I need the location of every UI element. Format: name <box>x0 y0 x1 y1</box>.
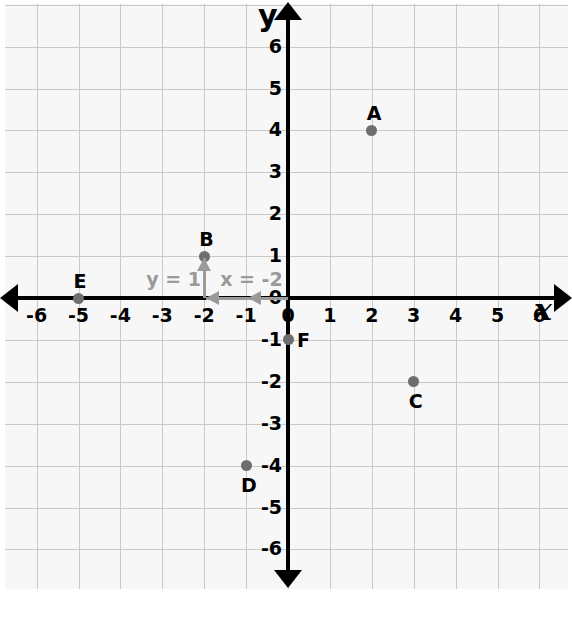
plotted-point-f <box>283 334 294 345</box>
x-tick-label-4: 4 <box>436 306 476 325</box>
x-tick-label-neg1: -1 <box>226 306 266 325</box>
point-label-e: E <box>74 272 87 291</box>
x-tick-label-neg6: -6 <box>17 306 57 325</box>
x-tick-label-3: 3 <box>394 306 434 325</box>
y-axis-line <box>286 14 290 576</box>
y-value-annotation-text: y = 1 <box>146 270 201 289</box>
y-tick-label-neg5: -5 <box>238 498 282 517</box>
x-tick-label-neg5: -5 <box>59 306 99 325</box>
point-label-a: A <box>367 104 382 123</box>
plotted-point-d <box>241 460 252 471</box>
x-tick-label-0: 0 <box>268 306 308 325</box>
y-tick-label-5: 5 <box>238 79 282 98</box>
point-label-f: F <box>297 331 310 350</box>
y-tick-label-6: 6 <box>238 37 282 56</box>
x-value-annotation-arrowhead-2 <box>248 291 261 305</box>
point-label-d: D <box>241 476 257 495</box>
x-tick-label-2: 2 <box>352 306 392 325</box>
coordinate-plane-figure: x y -6-5-4-3-2-10123456 6543210-1-2-3-4-… <box>0 0 572 617</box>
x-tick-label-1: 1 <box>310 306 350 325</box>
x-tick-label-5: 5 <box>478 306 518 325</box>
y-axis-bottom-arrowhead <box>274 570 302 588</box>
x-tick-label-neg2: -2 <box>184 306 224 325</box>
y-tick-label-2: 2 <box>238 204 282 223</box>
y-tick-label-1: 1 <box>238 246 282 265</box>
y-tick-label-neg6: -6 <box>238 539 282 558</box>
y-tick-label-neg3: -3 <box>238 414 282 433</box>
point-label-b: B <box>199 230 213 249</box>
x-tick-label-neg3: -3 <box>142 306 182 325</box>
x-value-annotation-arrowhead-1 <box>206 291 219 305</box>
x-tick-label-6: 6 <box>519 306 559 325</box>
x-tick-label-neg4: -4 <box>100 306 140 325</box>
y-tick-label-3: 3 <box>238 162 282 181</box>
plotted-point-e <box>73 293 84 304</box>
point-label-c: C <box>409 392 423 411</box>
y-tick-label-neg1: -1 <box>238 330 282 349</box>
x-axis-left-arrowhead <box>0 284 18 312</box>
y-axis-top-arrowhead <box>274 2 302 20</box>
x-value-annotation-text: x = -2 <box>220 270 283 289</box>
y-tick-label-neg2: -2 <box>238 372 282 391</box>
y-axis-label: y <box>258 0 278 33</box>
y-tick-label-4: 4 <box>238 120 282 139</box>
